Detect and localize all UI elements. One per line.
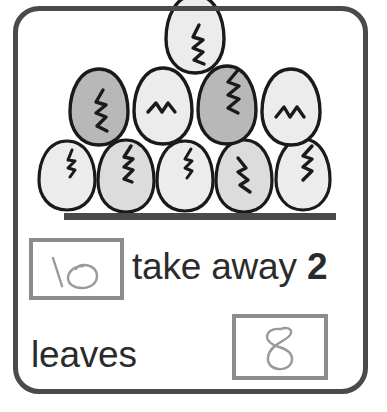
worksheet-page: take away 2 leaves — [0, 0, 387, 412]
worksheet-frame — [13, 6, 368, 394]
